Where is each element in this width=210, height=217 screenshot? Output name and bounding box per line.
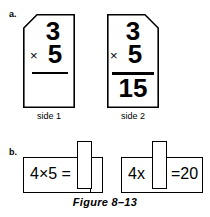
flashcard-2-answer: 15 [112,75,154,101]
flashcard-1-bottom-number: 5 [35,41,75,67]
flashcard-1-rule [32,72,68,74]
part-b-label: b. [9,148,17,157]
flashcard-side-2-content: 3 × 5 15 [107,14,159,108]
flashcard-side-1-content: 3 × 5 [23,14,75,108]
figure-8-13: a. 3 × 5 side 1 3 × 5 15 side 2 b. 4× [0,0,210,217]
flashcard-2-caption: side 2 [107,111,159,121]
slider-strip-right-handle[interactable] [152,141,167,189]
flashcard-2-bottom-number: 5 [115,41,155,67]
slider-strip-right-left-expression: 4x [128,166,145,182]
slider-strip-right-result: =20 [171,166,198,182]
slider-strip-left-expression: 4×5 = [30,166,71,182]
flashcard-1-caption: side 1 [23,111,75,121]
flashcard-side-2[interactable]: 3 × 5 15 [107,14,159,108]
flashcard-side-1[interactable]: 3 × 5 [23,14,75,108]
slider-strip-left-handle[interactable] [77,141,92,189]
figure-caption: Figure 8–13 [0,196,210,208]
part-a-label: a. [9,10,17,19]
